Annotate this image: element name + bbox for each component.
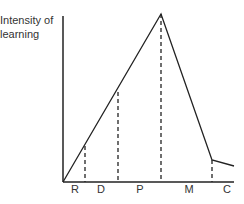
phase-label-d: D bbox=[97, 183, 105, 195]
phase-label-m: M bbox=[184, 183, 193, 195]
phase-label-r: R bbox=[71, 183, 79, 195]
phase-label-p: P bbox=[136, 183, 143, 195]
learning-curve bbox=[63, 14, 234, 182]
chart-plot bbox=[0, 0, 244, 204]
phase-label-c: C bbox=[223, 183, 231, 195]
phase-dividers bbox=[85, 14, 212, 182]
